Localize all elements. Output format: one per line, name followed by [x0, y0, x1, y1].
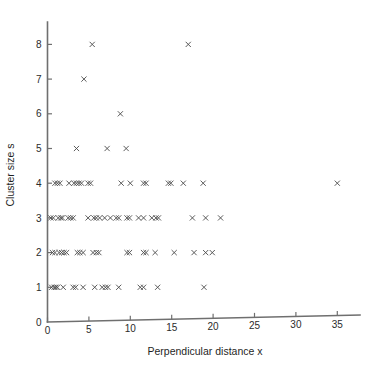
data-point-marker [57, 181, 62, 186]
data-point-marker [81, 285, 86, 290]
data-point-marker [74, 146, 79, 151]
data-point-marker [91, 215, 96, 220]
data-point-marker [218, 215, 223, 220]
data-point-marker [127, 215, 132, 220]
data-point-marker [73, 285, 78, 290]
y-axis-title: Cluster size s [4, 143, 16, 206]
data-point-marker [203, 250, 208, 255]
plot-canvas: 05101520253035 012345678 Perpendicular d… [0, 0, 373, 368]
y-tick-label: 7 [36, 74, 42, 85]
data-point-marker [172, 250, 177, 255]
data-point-group [48, 42, 340, 290]
data-point-marker [127, 250, 132, 255]
data-point-marker [201, 285, 206, 290]
x-tick-label: 10 [125, 323, 137, 334]
data-point-marker [136, 215, 141, 220]
data-point-marker [81, 250, 86, 255]
data-point-marker [201, 181, 206, 186]
x-axis-line [48, 315, 361, 322]
data-point-marker [55, 181, 60, 186]
data-point-marker [66, 215, 71, 220]
data-point-marker [66, 181, 71, 186]
data-point-marker [92, 285, 97, 290]
data-point-marker [85, 181, 90, 186]
data-point-marker [191, 250, 196, 255]
data-point-marker [56, 250, 61, 255]
data-point-marker [190, 215, 195, 220]
x-tick-label: 5 [86, 324, 92, 335]
data-point-marker [166, 181, 171, 186]
y-tick-label: 1 [36, 282, 42, 293]
x-axis-title: Perpendicular distance x [148, 345, 264, 357]
data-point-marker [141, 285, 146, 290]
data-point-marker [71, 285, 76, 290]
data-point-marker [335, 181, 340, 186]
data-point-marker [76, 181, 81, 186]
data-point-marker [79, 181, 84, 186]
data-point-marker [203, 215, 208, 220]
data-point-marker [90, 42, 95, 47]
data-point-marker [105, 285, 110, 290]
data-point-marker [61, 250, 66, 255]
x-tick-label: 25 [249, 320, 261, 331]
data-point-marker [97, 215, 102, 220]
data-point-marker [103, 285, 108, 290]
data-point-marker [119, 181, 124, 186]
y-tick-label: 3 [36, 213, 42, 224]
data-point-marker [96, 250, 101, 255]
x-axis-ticks: 05101520253035 [45, 311, 344, 336]
scatter-plot-figure: 05101520253035 012345678 Perpendicular d… [0, 0, 373, 368]
data-point-marker [124, 250, 129, 255]
data-point-marker [94, 250, 99, 255]
data-point-marker [102, 215, 107, 220]
x-tick-label: 0 [45, 325, 51, 336]
data-point-marker [143, 181, 148, 186]
data-point-marker [52, 181, 57, 186]
y-axis-ticks: 012345678 [36, 39, 52, 328]
x-tick-label: 30 [290, 319, 302, 330]
data-point-marker [61, 285, 66, 290]
data-point-marker [128, 181, 133, 186]
data-point-marker [186, 42, 191, 47]
data-point-marker [81, 77, 86, 82]
data-point-marker [141, 215, 146, 220]
data-point-marker [153, 250, 158, 255]
data-point-marker [88, 181, 93, 186]
data-point-marker [143, 250, 148, 255]
data-point-marker [118, 111, 123, 116]
data-point-marker [155, 285, 160, 290]
data-point-marker [141, 181, 146, 186]
x-tick-label: 20 [208, 321, 220, 332]
data-point-marker [153, 215, 158, 220]
data-point-marker [71, 215, 76, 220]
y-tick-label: 5 [36, 143, 42, 154]
data-point-marker [156, 215, 161, 220]
data-point-marker [68, 215, 73, 220]
y-tick-label: 0 [36, 317, 42, 328]
data-point-marker [71, 181, 76, 186]
data-point-marker [124, 215, 129, 220]
data-point-marker [116, 215, 121, 220]
data-point-marker [85, 215, 90, 220]
data-point-marker [116, 285, 121, 290]
data-point-marker [74, 181, 79, 186]
data-point-marker [124, 146, 129, 151]
data-point-marker [64, 250, 69, 255]
data-point-marker [75, 250, 80, 255]
y-tick-label: 4 [36, 178, 42, 189]
data-point-marker [59, 250, 64, 255]
data-point-marker [108, 215, 113, 220]
x-tick-label: 15 [166, 322, 178, 333]
y-tick-label: 8 [36, 39, 42, 50]
data-point-marker [210, 250, 215, 255]
data-point-marker [114, 215, 119, 220]
y-tick-label: 6 [36, 108, 42, 119]
data-point-marker [181, 181, 186, 186]
y-tick-label: 2 [36, 247, 42, 258]
data-point-marker [168, 181, 173, 186]
data-point-marker [105, 146, 110, 151]
data-point-marker [141, 250, 146, 255]
x-tick-label: 35 [332, 319, 344, 330]
